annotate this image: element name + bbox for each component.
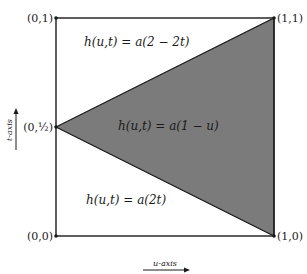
u-axis-arrowhead-icon [184,268,190,273]
homotopy-diagram: (0,1) (1,1) (0,0) (1,0) (0,½) h(u,t) = a… [0,0,307,274]
u-axis-label: u-axis [153,259,177,268]
formula-lower-region: h(u,t) = a(2t) [86,193,166,207]
label-bottom-left: (0,0) [27,230,53,243]
point-left-mid [54,125,58,129]
t-axis-arrowhead-icon [14,108,19,114]
label-top-left: (0,1) [27,12,53,25]
t-axis-label: t-axis [5,119,14,141]
point-bottom-right [272,234,276,238]
formula-middle-region: h(u,t) = a(1 − u) [118,119,219,133]
label-bottom-right: (1,0) [277,230,303,243]
point-top-right [272,16,276,20]
point-bottom-left [54,234,58,238]
formula-upper-region: h(u,t) = a(2 − 2t) [84,35,190,49]
label-left-mid: (0,½) [23,121,53,134]
label-top-right: (1,1) [277,12,303,25]
point-top-left [54,16,58,20]
